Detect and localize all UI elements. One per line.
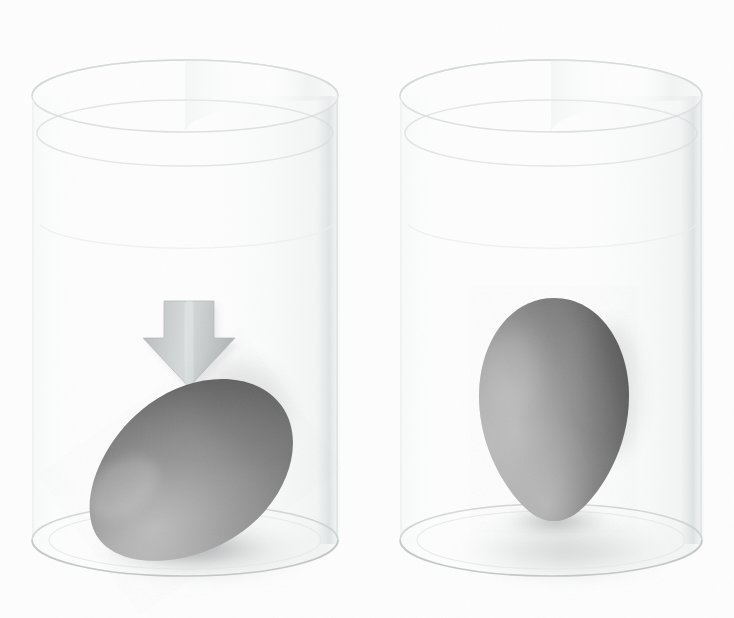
illustration-canvas: Egg balancing demonstration: tilted egg …: [0, 0, 734, 618]
scene-svg: Egg balancing demonstration: tilted egg …: [0, 0, 734, 618]
paper-grain-overlay: [0, 0, 734, 618]
